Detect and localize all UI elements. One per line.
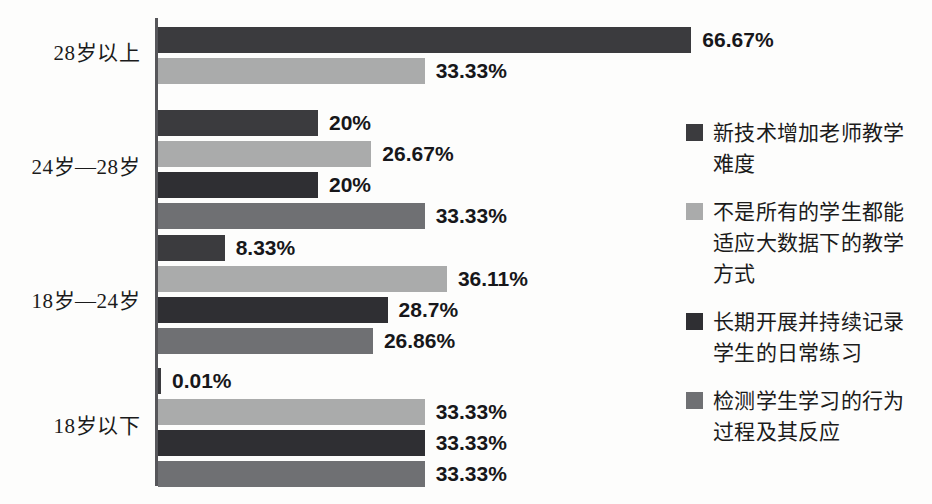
bar-series-0[interactable] [158, 110, 318, 136]
bar-row[interactable]: 66.67% [158, 27, 774, 53]
legend-item[interactable]: 新技术增加老师教学 难度 [686, 118, 932, 180]
bar-value-label: 66.67% [702, 28, 773, 52]
bar-value-label: 33.33% [436, 431, 507, 455]
bar-row[interactable]: 26.67% [158, 141, 454, 167]
legend-label: 不是所有的学生都能 适应大数据下的教学 方式 [713, 197, 905, 290]
bar-value-label: 26.67% [382, 142, 453, 166]
legend-item[interactable]: 检测学生学习的行为 过程及其反应 [686, 386, 932, 448]
bar-value-label: 26.86% [384, 329, 455, 353]
bar-series-0[interactable] [158, 235, 225, 261]
chart-plot-area: 28岁以上66.67%33.33%24岁—28岁20%26.67%20%33.3… [0, 0, 680, 504]
bar-value-label: 0.01% [172, 369, 232, 393]
bar-row[interactable]: 33.33% [158, 461, 507, 487]
bar-series-0[interactable] [158, 27, 691, 53]
bar-value-label: 33.33% [436, 400, 507, 424]
bar-series-1[interactable] [158, 399, 425, 425]
bar-series-3[interactable] [158, 328, 373, 354]
bar-series-2[interactable] [158, 297, 388, 323]
bar-value-label: 33.33% [436, 59, 507, 83]
bar-series-2[interactable] [158, 430, 425, 456]
bar-row[interactable]: 0.01% [158, 368, 232, 394]
bar-row[interactable]: 33.33% [158, 399, 507, 425]
bar-series-1[interactable] [158, 141, 371, 167]
legend-label: 新技术增加老师教学 难度 [713, 118, 905, 180]
bar-series-1[interactable] [158, 266, 447, 292]
legend-swatch-icon [686, 124, 703, 141]
bar-row[interactable]: 33.33% [158, 58, 507, 84]
bar-series-3[interactable] [158, 203, 425, 229]
chart-page: 28岁以上66.67%33.33%24岁—28岁20%26.67%20%33.3… [0, 0, 932, 504]
bar-series-1[interactable] [158, 58, 425, 84]
bar-row[interactable]: 33.33% [158, 203, 507, 229]
bar-value-label: 20% [329, 173, 371, 197]
category-label: 28岁以上 [0, 36, 140, 66]
bar-value-label: 28.7% [399, 298, 459, 322]
legend-item[interactable]: 不是所有的学生都能 适应大数据下的教学 方式 [686, 197, 932, 290]
bar-row[interactable]: 33.33% [158, 430, 507, 456]
bar-series-2[interactable] [158, 172, 318, 198]
bar-series-0[interactable] [158, 368, 161, 394]
bar-series-3[interactable] [158, 461, 425, 487]
category-label: 18岁—24岁 [0, 284, 140, 314]
bar-row[interactable]: 28.7% [158, 297, 458, 323]
legend-swatch-icon [686, 203, 703, 220]
legend-swatch-icon [686, 392, 703, 409]
bar-row[interactable]: 36.11% [158, 266, 528, 292]
legend-item[interactable]: 长期开展并持续记录 学生的日常练习 [686, 307, 932, 369]
bar-row[interactable]: 20% [158, 172, 371, 198]
chart-legend: 新技术增加老师教学 难度不是所有的学生都能 适应大数据下的教学 方式长期开展并持… [686, 118, 932, 465]
bar-value-label: 33.33% [436, 462, 507, 486]
legend-swatch-icon [686, 313, 703, 330]
category-label: 18岁以下 [0, 409, 140, 439]
legend-label: 检测学生学习的行为 过程及其反应 [713, 386, 905, 448]
bar-value-label: 33.33% [436, 204, 507, 228]
bar-value-label: 36.11% [458, 267, 528, 291]
bar-value-label: 20% [329, 111, 371, 135]
bar-value-label: 8.33% [236, 236, 296, 260]
bar-row[interactable]: 8.33% [158, 235, 295, 261]
category-label: 24岁—28岁 [0, 150, 140, 180]
bar-row[interactable]: 26.86% [158, 328, 455, 354]
legend-label: 长期开展并持续记录 学生的日常练习 [713, 307, 905, 369]
bar-row[interactable]: 20% [158, 110, 371, 136]
